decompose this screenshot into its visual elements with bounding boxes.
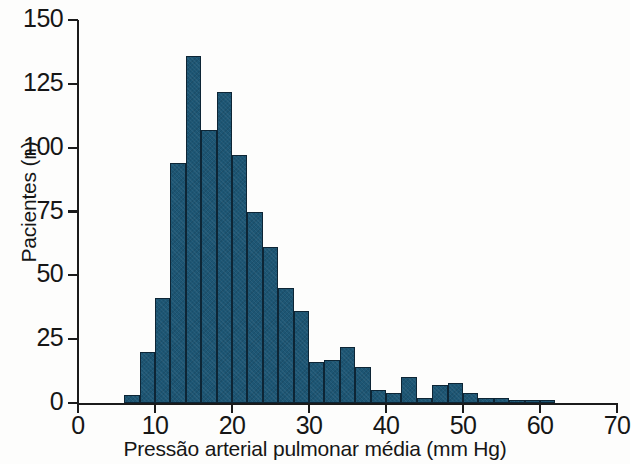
- histogram-bar: [140, 352, 155, 403]
- histogram-bar: [371, 390, 386, 403]
- x-tick-label: 30: [279, 411, 339, 440]
- x-axis-title: Pressão arterial pulmonar média (mm Hg): [0, 437, 630, 461]
- histogram-bar: [309, 362, 324, 403]
- x-tick-label: 10: [125, 411, 185, 440]
- x-tick-label: 70: [587, 411, 635, 440]
- y-tick-mark: [68, 19, 78, 21]
- histogram-bar: [278, 288, 293, 403]
- y-tick-mark: [68, 338, 78, 340]
- histogram-bar: [232, 155, 247, 403]
- histogram-bar: [355, 367, 370, 403]
- bar-series: [78, 20, 617, 403]
- x-tick-label: 40: [356, 411, 416, 440]
- histogram-bar: [340, 347, 355, 403]
- histogram-bar: [247, 212, 262, 404]
- histogram-bar: [401, 377, 416, 403]
- histogram-bar: [386, 393, 401, 403]
- x-tick-label: 20: [202, 411, 262, 440]
- histogram-bar: [324, 360, 339, 403]
- y-tick-label: 150: [0, 4, 63, 33]
- x-tick-label: 0: [48, 411, 108, 440]
- histogram-bar: [186, 56, 201, 403]
- histogram-bar: [155, 298, 170, 403]
- histogram-bar: [294, 311, 309, 403]
- y-tick-mark: [68, 83, 78, 85]
- y-axis-title: Pacientes (n): [17, 77, 41, 327]
- histogram-bar: [432, 385, 447, 403]
- plot-area: [78, 20, 617, 403]
- histogram-bar: [463, 393, 478, 403]
- x-axis-line: [77, 403, 618, 405]
- y-tick-mark: [68, 274, 78, 276]
- histogram-bar: [170, 163, 185, 403]
- x-tick-label: 60: [510, 411, 570, 440]
- histogram-bar: [217, 92, 232, 404]
- y-tick-label: 25: [0, 323, 63, 352]
- x-tick-label: 50: [433, 411, 493, 440]
- y-tick-mark: [68, 210, 78, 212]
- y-tick-mark: [68, 147, 78, 149]
- histogram-bar: [201, 130, 216, 403]
- histogram-bar: [448, 383, 463, 403]
- histogram-bar: [263, 247, 278, 403]
